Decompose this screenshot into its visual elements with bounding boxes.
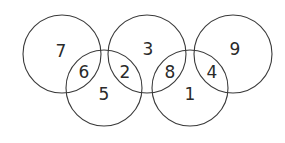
number-bottom-left: 5 [99,84,110,104]
number-top-right: 9 [230,39,241,59]
number-top-left: 7 [56,41,67,61]
number-bottom-left-top-middle-overlap: 2 [120,62,131,82]
numbers-group: 7 6 5 2 3 8 1 4 9 [56,39,241,104]
number-bottom-right: 1 [185,84,196,104]
number-top-left-bottom-left-overlap: 6 [79,62,90,82]
number-top-middle-bottom-right-overlap: 8 [165,62,176,82]
number-bottom-right-top-right-overlap: 4 [207,62,218,82]
number-top-middle: 3 [143,39,154,59]
circles-group [23,15,272,126]
overlapping-circles-diagram: 7 6 5 2 3 8 1 4 9 [0,0,285,143]
